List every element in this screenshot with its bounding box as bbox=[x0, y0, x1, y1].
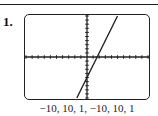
graph-plot bbox=[24, 14, 150, 100]
header-rule bbox=[0, 4, 158, 5]
axes bbox=[24, 14, 150, 100]
exercise-number: 1. bbox=[3, 14, 13, 30]
viewing-window-label: −10, 10, 1, −10, 10, 1 bbox=[0, 102, 158, 114]
